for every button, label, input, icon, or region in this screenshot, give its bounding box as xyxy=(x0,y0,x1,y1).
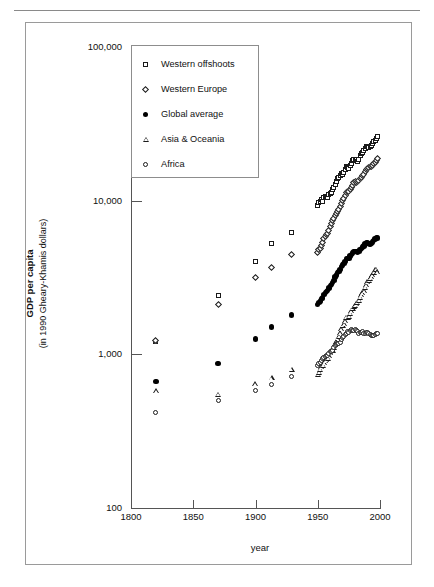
data-point xyxy=(369,272,375,277)
data-point xyxy=(328,220,335,227)
data-point xyxy=(342,192,349,199)
data-point xyxy=(374,155,381,162)
data-point xyxy=(335,176,340,181)
data-point xyxy=(332,212,339,219)
data-point xyxy=(334,342,339,347)
data-point xyxy=(316,370,322,375)
data-point xyxy=(371,270,377,275)
legend-item-0[interactable]: Western offshoots xyxy=(141,57,235,71)
data-point xyxy=(318,242,325,249)
data-point xyxy=(339,337,344,342)
data-point xyxy=(358,174,365,181)
data-point xyxy=(374,136,379,141)
data-point xyxy=(364,279,370,284)
y-tick-label-1000: 1,000 xyxy=(56,349,122,359)
data-point xyxy=(359,172,366,179)
data-point xyxy=(360,244,365,249)
data-point xyxy=(350,158,355,163)
data-point xyxy=(341,321,347,326)
data-point xyxy=(348,308,354,313)
data-point xyxy=(324,289,329,294)
data-point xyxy=(364,330,369,335)
y-axis-title-line1: GDP per capita xyxy=(24,250,35,318)
y-tick-label-10000: 10,000 xyxy=(56,196,122,206)
data-point xyxy=(316,200,321,205)
data-point xyxy=(354,300,360,305)
data-point xyxy=(348,328,353,333)
data-point xyxy=(323,290,328,295)
data-point xyxy=(361,288,367,293)
data-point xyxy=(352,249,357,254)
data-point xyxy=(358,153,363,158)
data-point xyxy=(253,388,258,393)
data-point xyxy=(345,165,350,170)
data-point xyxy=(351,304,357,309)
data-point xyxy=(331,278,336,283)
data-point xyxy=(343,315,349,320)
data-point xyxy=(323,194,328,199)
data-point xyxy=(371,238,376,243)
data-point xyxy=(340,195,347,202)
y-tick-1000 xyxy=(131,354,142,355)
data-point xyxy=(361,148,366,153)
legend-item-3[interactable]: Asia & Oceania xyxy=(141,132,224,146)
data-point xyxy=(344,331,349,336)
data-point xyxy=(341,334,346,339)
data-point xyxy=(319,197,324,202)
data-point xyxy=(316,300,321,305)
data-point xyxy=(368,163,375,170)
data-point xyxy=(323,357,329,362)
legend-item-4[interactable]: Africa xyxy=(141,157,185,171)
legend-item-1[interactable]: Western Europe xyxy=(141,82,227,96)
data-point xyxy=(315,372,321,377)
data-point xyxy=(370,333,375,338)
data-point xyxy=(329,217,336,224)
data-point xyxy=(370,239,375,244)
data-point xyxy=(341,170,346,175)
data-point xyxy=(369,162,376,169)
data-point xyxy=(340,172,345,177)
data-point xyxy=(327,350,333,355)
data-point xyxy=(321,195,326,200)
data-point xyxy=(360,329,365,334)
data-point xyxy=(322,358,328,363)
data-point xyxy=(364,165,371,172)
data-point xyxy=(332,341,338,346)
data-point xyxy=(334,208,341,215)
data-point xyxy=(362,168,369,175)
data-point xyxy=(360,150,365,155)
data-point xyxy=(325,227,332,234)
data-point xyxy=(340,323,346,328)
data-point xyxy=(345,315,351,320)
data-point xyxy=(269,375,275,380)
legend-item-label: Western offshoots xyxy=(161,59,235,69)
data-point xyxy=(346,314,352,319)
data-point xyxy=(336,269,341,274)
data-point xyxy=(375,235,380,240)
data-point xyxy=(335,270,340,275)
data-point xyxy=(324,353,329,358)
data-point xyxy=(341,261,346,266)
data-point xyxy=(316,361,321,366)
data-point xyxy=(215,361,220,366)
data-point xyxy=(317,245,324,252)
data-point xyxy=(216,398,221,403)
legend-item-2[interactable]: Global average xyxy=(141,107,223,121)
data-point xyxy=(363,166,370,173)
data-point xyxy=(344,164,349,169)
data-point xyxy=(351,249,356,254)
data-point xyxy=(331,185,336,190)
data-point xyxy=(320,356,325,361)
data-point xyxy=(319,239,326,246)
data-point xyxy=(320,235,327,242)
x-axis-title: year xyxy=(200,542,320,553)
data-point xyxy=(332,274,337,279)
data-point xyxy=(324,194,329,199)
data-point xyxy=(366,163,373,170)
data-point xyxy=(364,144,369,149)
data-point xyxy=(216,293,221,298)
data-point xyxy=(345,256,350,261)
data-point xyxy=(362,241,367,246)
data-point xyxy=(351,328,356,333)
data-point xyxy=(337,203,344,210)
